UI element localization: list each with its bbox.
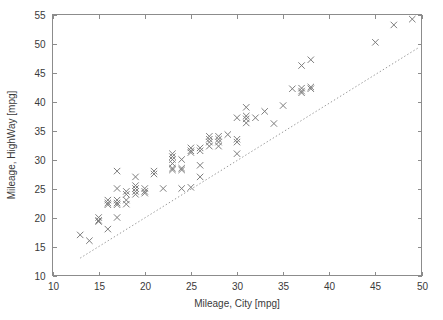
- data-point: [252, 115, 258, 121]
- y-axis-ticks: [53, 16, 422, 277]
- y-tick-label-35: 35: [34, 126, 46, 137]
- x-axis-ticks: [54, 15, 423, 276]
- data-point: [225, 131, 231, 137]
- data-point: [197, 162, 203, 168]
- chart-canvas: 101520253035404550 10152025303540455055 …: [0, 0, 443, 320]
- data-point: [298, 62, 304, 68]
- data-point: [178, 156, 184, 162]
- data-point: [114, 214, 120, 220]
- data-point: [234, 151, 240, 157]
- x-tick-label-15: 15: [94, 281, 106, 292]
- data-point: [391, 22, 397, 28]
- x-tick-label-50: 50: [417, 281, 429, 292]
- data-point: [280, 102, 286, 108]
- data-point: [105, 226, 111, 232]
- data-point: [114, 185, 120, 191]
- data-point: [132, 174, 138, 180]
- data-point: [86, 238, 92, 244]
- data-point: [308, 57, 314, 63]
- plot-frame: [53, 15, 422, 276]
- reference-line: [80, 48, 419, 259]
- data-point: [95, 218, 101, 224]
- x-tick-label-40: 40: [324, 281, 336, 292]
- x-tick-label-35: 35: [278, 281, 290, 292]
- y-tick-label-40: 40: [34, 97, 46, 108]
- data-point: [234, 115, 240, 121]
- data-point: [160, 185, 166, 191]
- data-point: [206, 143, 212, 149]
- data-point-markers: [77, 16, 416, 244]
- data-point: [271, 120, 277, 126]
- x-axis-tick-labels: 101520253035404550: [48, 281, 429, 292]
- y-axis-title: Mileage, HighWay [mpg]: [6, 91, 17, 200]
- data-point: [77, 232, 83, 238]
- data-point: [197, 174, 203, 180]
- y-tick-label-10: 10: [34, 271, 46, 282]
- y-axis-tick-labels: 10152025303540455055: [34, 10, 46, 282]
- data-point: [243, 104, 249, 110]
- y-tick-label-45: 45: [34, 68, 46, 79]
- data-point: [409, 16, 415, 22]
- y-tick-label-50: 50: [34, 39, 46, 50]
- x-tick-label-30: 30: [232, 281, 244, 292]
- y-tick-label-55: 55: [34, 10, 46, 21]
- y-tick-label-20: 20: [34, 213, 46, 224]
- x-axis-title: Mileage, City [mpg]: [194, 298, 280, 309]
- data-point: [114, 168, 120, 174]
- data-point: [243, 120, 249, 126]
- y-tick-label-15: 15: [34, 242, 46, 253]
- x-tick-label-20: 20: [140, 281, 152, 292]
- data-point: [178, 185, 184, 191]
- identity-reference-line: [80, 48, 419, 259]
- data-point: [372, 39, 378, 45]
- scatter-plot-figure: 101520253035404550 10152025303540455055 …: [0, 0, 443, 320]
- data-point: [261, 108, 267, 114]
- data-point: [123, 201, 129, 207]
- y-tick-label-30: 30: [34, 155, 46, 166]
- x-tick-label-10: 10: [48, 281, 60, 292]
- y-tick-label-25: 25: [34, 184, 46, 195]
- x-tick-label-45: 45: [370, 281, 382, 292]
- x-tick-label-25: 25: [186, 281, 198, 292]
- data-point: [289, 86, 295, 92]
- data-point: [215, 143, 221, 149]
